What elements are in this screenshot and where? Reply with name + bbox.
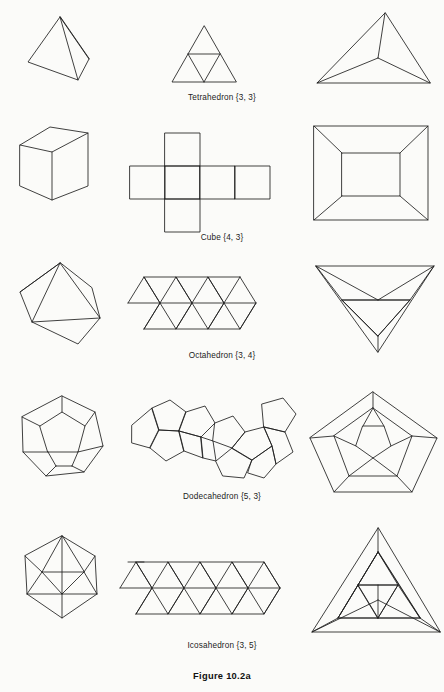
cube-net	[130, 133, 270, 232]
tetrahedron-net	[172, 26, 236, 82]
dodecahedron-schlegel	[310, 392, 437, 492]
caption-octahedron: Octahedron {3, 4}	[0, 351, 444, 360]
platonic-solids-diagram	[0, 0, 444, 692]
caption-dodecahedron: Dodecahedron {5, 3}	[0, 492, 444, 501]
figure-page: Tetrahedron {3, 3} Cube {4, 3} Octahedro…	[0, 0, 444, 692]
octahedron-net	[128, 277, 256, 329]
cube-perspective	[20, 127, 88, 200]
dodecahedron-perspective	[22, 396, 103, 476]
octahedron-perspective	[20, 263, 100, 344]
dodecahedron-net	[132, 398, 296, 478]
icosahedron-net	[120, 562, 280, 614]
caption-tetrahedron: Tetrahedron {3, 3}	[0, 93, 444, 102]
caption-icosahedron: Icosahedron {3, 5}	[0, 641, 444, 650]
icosahedron-schlegel	[312, 528, 440, 632]
tetrahedron-perspective	[28, 17, 89, 80]
icosahedron-perspective	[25, 536, 97, 618]
cube-schlegel	[314, 126, 428, 220]
octahedron-schlegel	[316, 266, 434, 352]
tetrahedron-schlegel	[317, 13, 430, 83]
caption-cube: Cube {4, 3}	[0, 233, 444, 242]
figure-label: Figure 10.2a	[0, 671, 444, 681]
